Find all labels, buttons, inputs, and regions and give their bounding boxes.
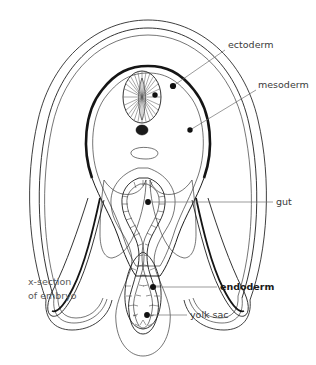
label-yolk-sac: yolk sac [190, 309, 229, 320]
marker-mesoderm [187, 127, 192, 132]
label-endoderm: endoderm [220, 281, 274, 292]
notochord [136, 125, 148, 135]
caption-line-2: of embryo [28, 290, 77, 301]
label-mesoderm: mesoderm [258, 79, 309, 90]
caption-line-1: x-section [28, 276, 71, 287]
marker-yolk-sac [144, 312, 150, 318]
marker-neural-tube [152, 92, 157, 97]
marker-gut [145, 199, 151, 205]
marker-ectoderm [170, 83, 176, 89]
label-gut: gut [276, 196, 292, 207]
marker-endoderm [150, 284, 156, 290]
diagram-canvas: ectoderm mesoderm gut endoderm yolk sac … [0, 0, 316, 365]
label-ectoderm: ectoderm [228, 39, 273, 50]
